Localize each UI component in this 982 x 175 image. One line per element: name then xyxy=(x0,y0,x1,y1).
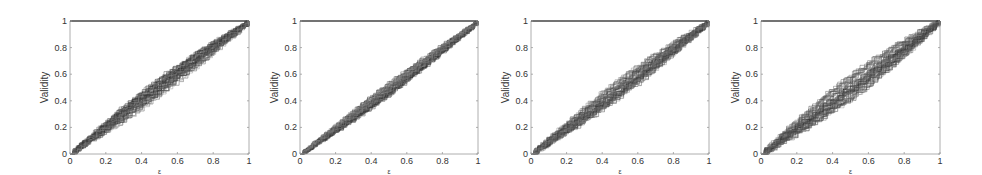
x-tick-label: 0.4 xyxy=(826,156,839,166)
y-tick-label: 0.4 xyxy=(745,96,758,106)
x-tick-label: 0.8 xyxy=(898,156,911,166)
x-axis-label: ε xyxy=(849,168,852,175)
y-tick-label: 0.6 xyxy=(745,69,758,79)
y-tick-label: 1 xyxy=(753,16,758,26)
x-tick-label: 0.2 xyxy=(791,156,804,166)
x-tick-label: 1 xyxy=(937,156,942,166)
y-tick-label: 0.2 xyxy=(745,122,758,132)
x-tick-label: 0 xyxy=(758,156,763,166)
x-tick-label: 0.6 xyxy=(862,156,875,166)
series-group xyxy=(761,21,940,154)
y-axis-label: Validity xyxy=(730,72,741,104)
y-tick-label: 0 xyxy=(753,149,758,159)
y-tick-label: 0.8 xyxy=(745,43,758,53)
